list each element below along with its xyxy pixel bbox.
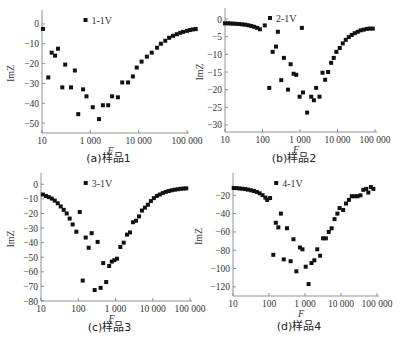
panel-caption: (a)样品1 <box>86 151 130 165</box>
x-tick-label: 10 <box>228 299 238 309</box>
data-point <box>318 254 322 258</box>
data-point <box>84 94 88 98</box>
data-point <box>104 280 108 284</box>
data-point <box>300 247 304 251</box>
panel-1: 0−10−20−30−40−50101 00010 000100 000FImZ… <box>5 10 203 165</box>
y-tick-label: 0 <box>34 19 39 29</box>
data-point <box>184 186 188 190</box>
data-point <box>60 85 64 89</box>
data-point <box>106 103 110 107</box>
data-point <box>137 214 141 218</box>
chart-figure: 0−10−20−30−40−50101 00010 000100 000FImZ… <box>0 0 403 345</box>
y-tick-label: −70 <box>23 282 38 292</box>
y-axis-title: ImZ <box>5 230 16 247</box>
y-tick-label: −25 <box>207 103 222 113</box>
data-point <box>333 217 337 221</box>
data-point <box>110 94 114 98</box>
data-point <box>71 222 75 226</box>
data-point <box>115 257 119 261</box>
data-point <box>307 282 311 286</box>
data-point <box>341 208 345 212</box>
data-point <box>78 210 82 214</box>
data-point <box>128 230 132 234</box>
legend-label: 2-1V <box>276 13 297 24</box>
data-point <box>271 50 275 54</box>
data-point <box>315 247 319 251</box>
y-tick-label: −40 <box>215 209 230 219</box>
x-tick-label: 10 <box>36 304 46 314</box>
y-tick-label: −30 <box>207 120 222 130</box>
data-point <box>155 46 159 50</box>
data-point <box>74 230 78 234</box>
y-tick-label: −10 <box>24 39 39 49</box>
data-point <box>167 36 171 40</box>
y-axis-title: ImZ <box>194 63 205 80</box>
data-point <box>344 202 348 206</box>
data-point <box>318 95 322 99</box>
data-point <box>150 51 154 55</box>
data-point <box>258 27 262 31</box>
y-tick-label: −20 <box>24 59 39 69</box>
y-tick-label: −15 <box>207 68 222 78</box>
data-point <box>93 288 97 292</box>
data-point <box>276 30 280 34</box>
data-point <box>96 240 100 244</box>
data-point <box>163 39 167 43</box>
data-point <box>294 73 298 77</box>
data-point <box>73 69 77 73</box>
data-point <box>312 258 316 262</box>
data-point <box>101 261 105 265</box>
data-point <box>181 30 185 34</box>
panel-3: 0−10−20−30−40−50−60−70−80101001 00010 00… <box>5 173 206 334</box>
data-point <box>159 42 163 46</box>
y-tick-label: −120 <box>210 282 230 292</box>
data-point <box>300 26 304 30</box>
data-point <box>68 217 72 221</box>
panel-caption: (b)样品2 <box>272 151 317 165</box>
data-point <box>101 103 105 107</box>
y-tick-label: −80 <box>215 246 230 256</box>
data-point <box>134 219 138 223</box>
data-point <box>338 206 342 210</box>
data-point <box>304 265 308 269</box>
y-tick-label: 0 <box>217 15 222 25</box>
data-point <box>324 236 328 240</box>
data-point <box>323 78 327 82</box>
data-point <box>330 226 334 230</box>
y-tick-label: 0 <box>33 180 38 190</box>
panel-2: 0−5−10−15−20−25−30101001 00010 000100 00… <box>194 8 391 165</box>
y-tick-label: −30 <box>24 79 39 89</box>
data-point <box>140 60 144 64</box>
data-point <box>276 225 280 229</box>
data-point <box>135 66 139 70</box>
data-point <box>90 231 94 235</box>
data-point <box>99 286 103 290</box>
data-point <box>97 117 101 121</box>
data-point <box>76 112 80 116</box>
legend-marker <box>268 16 272 20</box>
data-point <box>65 211 69 215</box>
y-tick-label: −40 <box>23 238 38 248</box>
x-tick-label: 10 000 <box>324 135 350 145</box>
data-point <box>107 264 111 268</box>
data-point <box>282 257 286 261</box>
data-point <box>267 86 271 90</box>
data-point <box>81 87 85 91</box>
data-point <box>286 88 290 92</box>
data-point <box>358 193 362 197</box>
legend-label: 3-1V <box>92 178 113 189</box>
data-point <box>62 208 66 212</box>
y-tick-label: −30 <box>23 224 38 234</box>
data-point <box>69 85 73 89</box>
y-tick-label: −10 <box>207 50 222 60</box>
y-tick-label: −5 <box>212 32 222 42</box>
y-tick-label: −20 <box>215 191 230 201</box>
data-point <box>289 259 293 263</box>
data-point <box>305 111 309 115</box>
x-tick-label: 100 000 <box>175 304 206 314</box>
data-point <box>46 75 50 79</box>
data-point <box>282 56 286 60</box>
y-tick-label: −50 <box>23 253 38 263</box>
data-point <box>84 236 88 240</box>
x-tick-label: 10 000 <box>328 299 354 309</box>
